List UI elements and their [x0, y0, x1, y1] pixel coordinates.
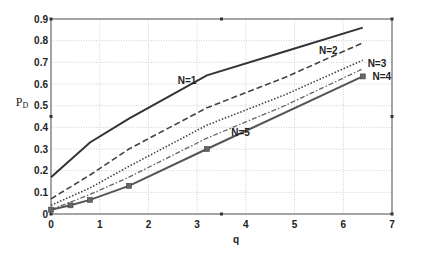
x-tick-label: 4 — [243, 219, 249, 230]
y-tick-label: 0 — [42, 209, 48, 220]
x-tick-label: 1 — [97, 219, 103, 230]
x-tick-label: 2 — [146, 219, 152, 230]
axis-handle-marker — [50, 213, 53, 216]
plot-axes — [50, 18, 394, 216]
y-axis-label: PD — [16, 95, 29, 110]
series-label: N=4 — [373, 71, 392, 82]
x-tick-label: 6 — [341, 219, 347, 230]
data-point-marker — [68, 203, 73, 208]
series-label: N=1 — [178, 75, 197, 86]
y-tick-label: 0.1 — [34, 187, 48, 198]
x-tick-label: 0 — [48, 219, 54, 230]
series-label: N=3 — [368, 58, 387, 69]
series-line-n1 — [51, 28, 363, 178]
series-label: N=5 — [231, 127, 250, 138]
x-axis-ticks: 01234567 — [48, 219, 395, 230]
series-label: N=2 — [319, 45, 338, 56]
series-line-n3 — [51, 60, 363, 205]
plot-frame — [51, 19, 392, 214]
y-tick-label: 0.5 — [34, 100, 48, 111]
y-tick-label: 0.3 — [34, 144, 48, 155]
x-axis-label: q — [233, 234, 239, 245]
y-tick-label: 0.7 — [34, 57, 48, 68]
data-point-marker — [204, 147, 209, 152]
data-point-marker — [360, 74, 365, 79]
axis-handle-marker — [220, 213, 223, 216]
series-line-n5 — [51, 76, 363, 209]
axis-handle-marker — [50, 115, 53, 118]
axis-handle-marker — [50, 18, 53, 21]
axis-handle-marker — [391, 213, 394, 216]
axis-handle-marker — [391, 115, 394, 118]
series-line-n2 — [51, 43, 363, 199]
axis-handle-marker — [391, 18, 394, 21]
data-series — [49, 28, 366, 213]
y-axis-ticks: 00.10.20.30.40.50.60.70.80.9 — [34, 14, 48, 220]
y-tick-label: 0.9 — [34, 14, 48, 25]
grid — [51, 19, 392, 214]
axis-handle-marker — [220, 18, 223, 21]
x-tick-label: 5 — [292, 219, 298, 230]
line-chart: 01234567 00.10.20.30.40.50.60.70.80.9 N=… — [0, 0, 439, 263]
x-tick-label: 3 — [194, 219, 200, 230]
series-line-n4 — [51, 69, 363, 210]
x-tick-label: 7 — [389, 219, 395, 230]
y-tick-label: 0.4 — [34, 122, 48, 133]
data-point-marker — [126, 183, 131, 188]
y-tick-label: 0.8 — [34, 35, 48, 46]
y-tick-label: 0.2 — [34, 165, 48, 176]
data-point-marker — [87, 197, 92, 202]
data-point-marker — [49, 207, 54, 212]
y-tick-label: 0.6 — [34, 79, 48, 90]
